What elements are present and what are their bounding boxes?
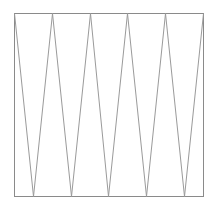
diagram-canvas (0, 0, 216, 204)
zigzag-line (15, 14, 204, 197)
zigzag-diagram (0, 0, 216, 204)
